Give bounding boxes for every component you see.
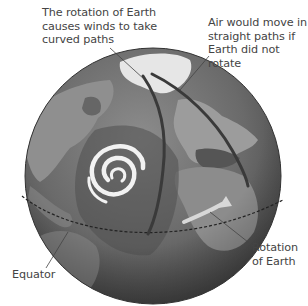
label-straight-paths: Air would move in straight paths if Eart…	[208, 16, 308, 70]
label-equator: Equator	[12, 268, 72, 282]
globe	[24, 48, 281, 304]
label-rotation-of-earth: Rotation of Earth	[252, 241, 308, 268]
label-curved-paths: The rotation of Earth causes winds to ta…	[42, 6, 172, 47]
